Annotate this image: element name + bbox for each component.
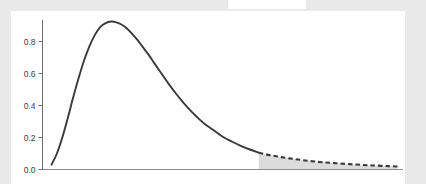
- y-axis-tick-label: 0.4: [24, 101, 36, 111]
- density-chart: 0.00.20.40.60.8: [11, 11, 405, 184]
- y-axis-tick-labels: 0.00.20.40.60.8: [24, 37, 36, 175]
- top-white-notch: [228, 0, 306, 9]
- tail-shaded-area: [259, 153, 398, 170]
- figure-root: 0.00.20.40.60.8: [0, 0, 426, 184]
- y-axis-ticks: [39, 42, 43, 170]
- y-axis-tick-label: 0.6: [24, 69, 36, 79]
- plot-panel: 0.00.20.40.60.8: [11, 11, 405, 184]
- y-axis-tick-label: 0.2: [24, 133, 36, 143]
- y-axis-tick-label: 0.8: [24, 37, 36, 47]
- y-axis-tick-label: 0.0: [24, 165, 36, 175]
- density-curve-solid: [52, 21, 259, 164]
